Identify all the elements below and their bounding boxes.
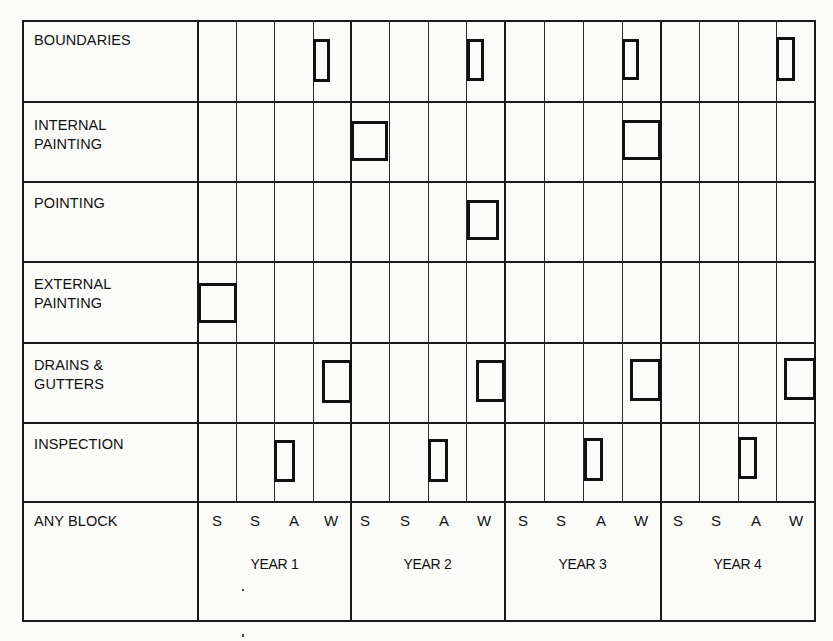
year-label-4: YEAR 4	[661, 556, 814, 572]
grid-line	[583, 20, 584, 502]
year-label-1: YEAR 1	[198, 556, 351, 572]
grid-line	[622, 20, 623, 502]
schedule-marker-inspection	[428, 439, 448, 482]
grid-line	[22, 101, 816, 103]
season-label: W	[465, 512, 503, 529]
grid-line	[313, 20, 314, 502]
grid-line	[428, 20, 429, 502]
schedule-marker-drains-gutters	[784, 358, 816, 400]
schedule-marker-inspection	[584, 438, 603, 481]
grid-line	[350, 20, 352, 622]
grid-line	[389, 20, 390, 502]
speck	[242, 589, 244, 591]
row-label-any-block: ANY BLOCK	[34, 512, 118, 531]
grid-line	[22, 342, 816, 344]
row-label-pointing: POINTING	[34, 194, 105, 213]
season-label: A	[275, 512, 313, 529]
grid-line	[544, 20, 545, 502]
season-label: S	[198, 512, 236, 529]
schedule-marker-boundaries	[622, 39, 639, 80]
grid-line	[274, 20, 275, 502]
row-label-inspection: INSPECTION	[34, 435, 124, 454]
schedule-marker-external-painting	[198, 283, 237, 323]
grid-line	[22, 620, 816, 622]
season-label: A	[425, 512, 463, 529]
season-label: A	[737, 512, 775, 529]
schedule-marker-boundaries	[776, 37, 795, 81]
grid-line	[466, 20, 467, 502]
season-label: S	[386, 512, 424, 529]
season-label: S	[236, 512, 274, 529]
grid-line	[22, 501, 816, 503]
grid-line	[22, 422, 816, 424]
grid-line	[22, 20, 816, 22]
schedule-marker-pointing	[467, 200, 499, 240]
row-label-external-painting: EXTERNAL PAINTING	[34, 275, 111, 313]
row-label-boundaries: BOUNDARIES	[34, 31, 131, 50]
schedule-marker-inspection	[738, 437, 757, 479]
grid-line	[738, 20, 739, 502]
schedule-marker-internal-painting	[622, 120, 661, 160]
grid-line	[22, 261, 816, 263]
schedule-marker-drains-gutters	[476, 360, 505, 402]
schedule-marker-inspection	[274, 440, 295, 482]
grid-line	[660, 20, 662, 622]
row-label-drains-gutters: DRAINS & GUTTERS	[34, 356, 104, 394]
grid-line	[22, 20, 24, 622]
maintenance-schedule-grid: BOUNDARIES INTERNAL PAINTING POINTING EX…	[0, 0, 833, 641]
schedule-marker-boundaries	[467, 39, 484, 81]
season-label: S	[697, 512, 735, 529]
grid-line	[699, 20, 700, 502]
season-label: W	[622, 512, 660, 529]
grid-line	[22, 181, 816, 183]
row-label-internal-painting: INTERNAL PAINTING	[34, 116, 107, 154]
year-label-2: YEAR 2	[351, 556, 504, 572]
grid-line	[236, 20, 237, 502]
season-label: W	[777, 512, 815, 529]
schedule-marker-drains-gutters	[630, 359, 661, 401]
schedule-marker-internal-painting	[351, 121, 388, 161]
grid-line	[814, 20, 816, 622]
speck	[242, 634, 244, 637]
schedule-marker-boundaries	[313, 39, 330, 82]
season-label: S	[504, 512, 542, 529]
schedule-marker-drains-gutters	[322, 360, 352, 403]
year-label-3: YEAR 3	[506, 556, 659, 572]
grid-line	[776, 20, 777, 502]
season-label: S	[542, 512, 580, 529]
season-label: A	[582, 512, 620, 529]
season-label: S	[346, 512, 384, 529]
grid-line	[504, 20, 506, 622]
season-label: S	[659, 512, 697, 529]
season-label: W	[312, 512, 350, 529]
